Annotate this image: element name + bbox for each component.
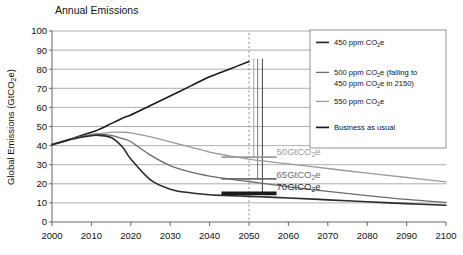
y-tick-label: 40 (36, 140, 47, 151)
y-tick-label: 90 (36, 45, 47, 56)
y-tick-label: 60 (36, 102, 47, 113)
legend-label-2: 550 ppm CO2e (334, 97, 384, 107)
chart-title-group: Annual Emissions (55, 4, 138, 16)
y-axis-title-group: Global Emissions (GtCO2e) (5, 69, 17, 185)
chart-container: Annual Emissions010203040506070809010020… (0, 0, 463, 255)
y-tick-label: 100 (31, 25, 47, 36)
legend-label-3: Business as usual (334, 123, 396, 132)
legend-label-0: 450 ppm CO2e (334, 38, 384, 48)
annotation-label-1: 65GtCO2e (277, 169, 321, 181)
x-tick-label: 2010 (81, 230, 102, 241)
x-tick-label: 2050 (238, 230, 259, 241)
x-tick-label: 2000 (41, 230, 62, 241)
y-tick-label: 80 (36, 64, 47, 75)
y-tick-label: 70 (36, 83, 47, 94)
legend-label-1: 500 ppm CO2e (falling to (334, 68, 417, 78)
x-tick-label: 2070 (317, 230, 338, 241)
y-tick-label: 20 (36, 178, 47, 189)
y-axis-ticks: 0102030405060708090100 (31, 25, 52, 227)
svg-text:Global Emissions (GtCO2e): Global Emissions (GtCO2e) (5, 69, 17, 185)
x-tick-label: 2040 (199, 230, 220, 241)
y-tick-label: 30 (36, 159, 47, 170)
x-axis-ticks: 2000201020202030204020502060207020802090… (41, 222, 456, 241)
legend: 450 ppm CO2e500 ppm CO2e (falling to450 … (310, 30, 446, 148)
x-tick-label: 2100 (435, 230, 456, 241)
annotation-labels-group: 50GtCO2e65GtCO2e70GtCO2e (277, 146, 321, 193)
annual-emissions-line-chart: Annual Emissions010203040506070809010020… (0, 0, 463, 255)
x-tick-label: 2060 (278, 230, 299, 241)
x-tick-label: 2080 (357, 230, 378, 241)
annotation-label-2: 70GtCO2e (277, 181, 321, 193)
y-tick-label: 10 (36, 197, 47, 208)
page-title: Annual Emissions (55, 4, 138, 16)
x-tick-label: 2090 (396, 230, 417, 241)
x-tick-label: 2020 (120, 230, 141, 241)
x-tick-label: 2030 (160, 230, 181, 241)
legend-label-1-line2: 450 ppm CO2e in 2150) (334, 79, 414, 89)
y-tick-label: 0 (42, 216, 47, 227)
y-tick-label: 50 (36, 121, 47, 132)
series-line-0 (52, 62, 249, 145)
